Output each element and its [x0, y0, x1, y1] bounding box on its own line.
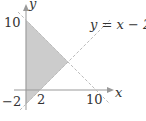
- shaded-region: [26, 20, 68, 104]
- x-axis-arrow-icon: [107, 87, 114, 93]
- x-tick-10: 10: [86, 92, 103, 107]
- y-axis-label: y: [28, 0, 37, 11]
- line-label: y = x − 2: [89, 17, 146, 32]
- y-tick-10: 10: [4, 15, 21, 30]
- x-axis-label: x: [115, 85, 123, 100]
- x-tick-2: 2: [37, 92, 45, 107]
- y-tick-neg2: −2: [2, 94, 21, 109]
- graph: y x 10 −2 2 10 y = x − 2: [0, 0, 146, 121]
